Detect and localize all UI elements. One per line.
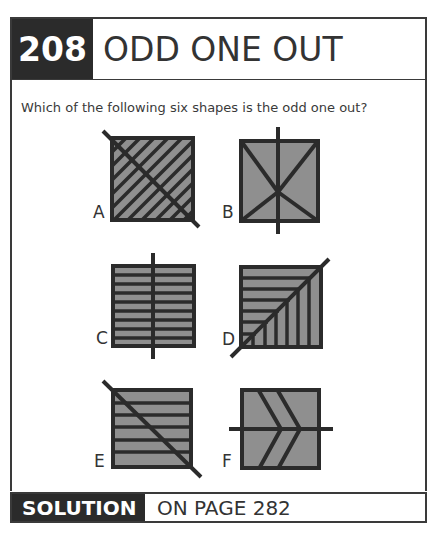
shape-label-f: F [222, 451, 232, 471]
shape-f[interactable]: F [222, 390, 333, 471]
shapes-canvas: A B C [0, 0, 435, 534]
shape-a[interactable]: A [93, 131, 206, 227]
shape-label-d: D [222, 329, 235, 349]
shape-label-a: A [93, 202, 105, 222]
shape-b[interactable]: B [222, 127, 318, 234]
shape-e[interactable]: E [94, 381, 201, 477]
shape-label-e: E [94, 451, 105, 471]
shape-c[interactable]: C [96, 253, 194, 359]
shape-label-c: C [96, 328, 108, 348]
shape-label-b: B [222, 202, 234, 222]
shape-d[interactable]: D [222, 259, 329, 357]
